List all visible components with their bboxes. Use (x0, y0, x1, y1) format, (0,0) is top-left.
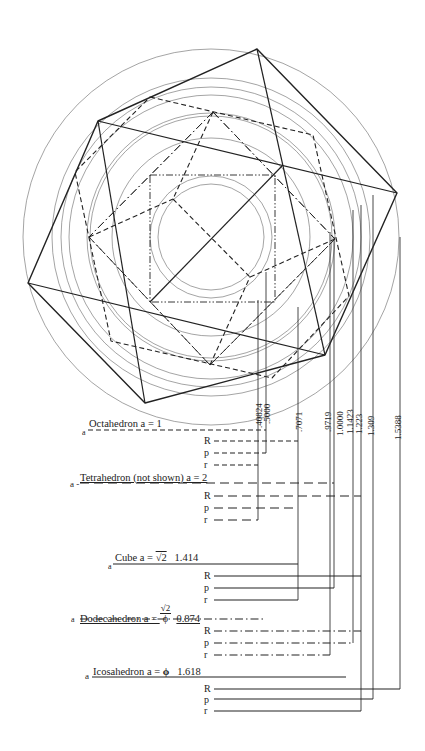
concentric-circles (23, 49, 399, 425)
reference-circle (52, 78, 370, 396)
row-label-R: R (204, 491, 211, 501)
cube-inner-edge (213, 112, 335, 239)
icosahedron-title: Icosahedron a = ϕ 1.618 (93, 667, 201, 677)
reference-circle (23, 49, 399, 425)
icosahedron-inner-edges-edge (150, 166, 282, 302)
row-label-p: p (204, 695, 209, 705)
row-label-R: R (204, 571, 211, 581)
sqrt-two: √2 (156, 552, 167, 563)
row-label-R: R (204, 626, 211, 636)
column-label: 1.0000 (335, 411, 345, 436)
a-prefix: a (108, 562, 112, 572)
icosahedron-inner-edges-edge (257, 49, 325, 355)
phi-symbol: ϕ (163, 666, 170, 677)
reference-circle (61, 87, 361, 387)
row-label-R: R (204, 436, 211, 446)
row-label-p: p (204, 448, 209, 458)
column-label: .9719 (323, 412, 333, 432)
cube-value: 1.414 (175, 552, 199, 563)
polyhedra-diagram (0, 0, 425, 751)
row-label-r: r (204, 650, 207, 660)
fraction: √2ϕ (160, 603, 171, 624)
octahedron-edges-edge (173, 112, 213, 199)
octahedron-edges-edge (250, 239, 335, 277)
row-label-R: R (204, 684, 211, 694)
column-label: 1.223 (354, 414, 364, 434)
a-prefix: a (85, 671, 89, 681)
reference-circle (90, 116, 332, 358)
octahedron-edges-edge (89, 199, 173, 237)
row-label-p: p (204, 503, 209, 513)
row-label-p: p (204, 583, 209, 593)
a-prefix: a (71, 615, 75, 625)
dodecahedron-title-text: Dodecahedron a = (80, 613, 160, 624)
column-label: .7071 (294, 412, 304, 432)
radius-columns (258, 195, 400, 711)
phi-symbol: ϕ (160, 614, 171, 624)
dodecahedron-value: 0.874 (176, 613, 200, 624)
row-label-p: p (204, 638, 209, 648)
row-label-r: r (204, 515, 207, 525)
row-label-r: r (204, 595, 207, 605)
octahedron-edges-edge (210, 277, 250, 365)
cube-title-text: Cube a = (115, 552, 156, 563)
octahedron-title: Octahedron a = 1 (89, 419, 162, 429)
icosahedron-value: 1.618 (177, 666, 201, 677)
column-label: 1.5388 (393, 415, 403, 440)
cube-title: Cube a = √2 1.414 (115, 553, 198, 563)
row-label-r: r (204, 706, 207, 716)
dodecahedron-title: Dodecahedron a = √2ϕ 0.874 (80, 609, 200, 630)
icosahedron-inner-edges-edge (98, 121, 145, 403)
column-label: .5000 (262, 404, 272, 424)
icosahedron-title-text: Icosahedron a = (93, 666, 163, 677)
tetrahedron-title: Tetrahedron (not shown) a = 2 (80, 473, 207, 483)
a-prefix: a - (70, 479, 79, 489)
column-label: 1.309 (366, 416, 376, 436)
row-label-r: r (204, 460, 207, 470)
a-prefix: a (82, 428, 86, 438)
